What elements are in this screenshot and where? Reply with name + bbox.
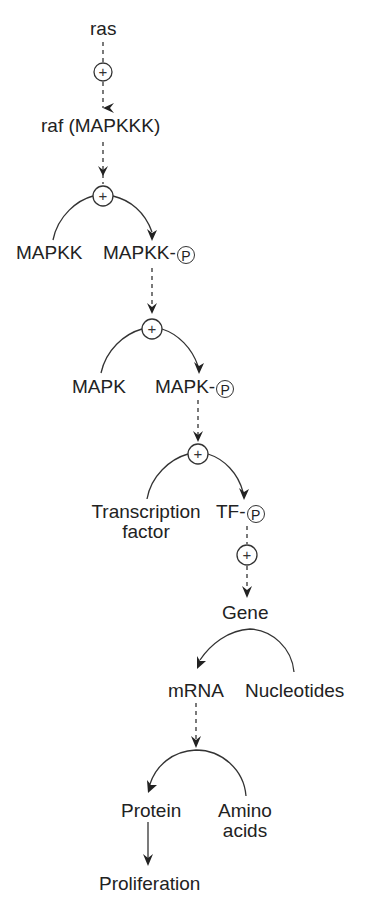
node-mapkk-phosphorylated: MAPKK-P bbox=[103, 243, 195, 264]
arc-transcription-factor bbox=[147, 454, 188, 499]
node-mrna: mRNA bbox=[168, 681, 224, 701]
svg-text:+: + bbox=[99, 187, 108, 204]
svg-text:+: + bbox=[148, 320, 157, 337]
node-nucleotides: Nucleotides bbox=[245, 681, 344, 701]
node-mapkk: MAPKK bbox=[16, 243, 83, 263]
phosphate-icon: P bbox=[216, 380, 234, 398]
phosphate-icon: P bbox=[247, 505, 265, 523]
node-tf-phosphorylated: TF-P bbox=[216, 502, 265, 523]
svg-text:+: + bbox=[243, 546, 252, 563]
node-amino-acids: Aminoacids bbox=[210, 801, 280, 841]
arc-mapkk bbox=[53, 196, 93, 240]
arc-translation bbox=[150, 750, 246, 796]
node-protein: Protein bbox=[121, 801, 181, 821]
pathway-diagram: + + + + + bbox=[0, 0, 369, 907]
node-raf-mapkkk: raf (MAPKKK) bbox=[41, 116, 160, 136]
plus-glyph: + bbox=[99, 63, 108, 80]
svg-text:+: + bbox=[194, 445, 203, 462]
arc-mapk bbox=[101, 329, 142, 373]
node-proliferation: Proliferation bbox=[99, 874, 200, 894]
node-ras: ras bbox=[90, 19, 116, 39]
node-transcription-factor: Transcriptionfactor bbox=[86, 502, 206, 542]
node-mapk-phosphorylated: MAPK-P bbox=[155, 377, 234, 398]
node-mapk: MAPK bbox=[72, 377, 126, 397]
node-gene: Gene bbox=[222, 603, 268, 623]
arc-transcription bbox=[200, 629, 294, 672]
phosphate-icon: P bbox=[177, 246, 195, 264]
